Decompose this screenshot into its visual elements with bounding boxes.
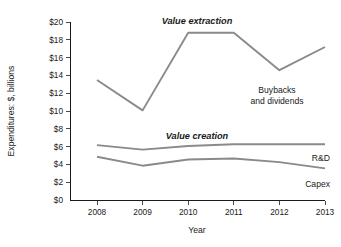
axis-lines [71,22,326,201]
annotation-value-extraction: Value extraction [162,16,233,26]
x-tick-label-2008: 2008 [88,207,107,217]
y-tick-label-10: $10 [49,106,63,116]
y-axis-title: Expenditures: $, billions [6,66,16,157]
x-tick-label-2011: 2011 [225,207,243,217]
y-tick-label-6: $6 [54,142,64,152]
y-tick-label-8: $8 [54,124,64,134]
y-tick-label-20: $20 [49,17,63,27]
y-tick-label-0: $0 [54,195,64,205]
x-tick-label-2012: 2012 [270,207,289,217]
x-tick-label-2009: 2009 [133,207,152,217]
series-label-buybacks-line2: and dividends [250,96,303,106]
line-chart: Expenditures: $, billions $20 $18 $16 $1… [0,0,341,247]
series-label-capex: Capex [305,179,331,189]
y-tick-label-4: $4 [54,159,64,169]
series-label-rnd: R&D [312,153,330,163]
series-line-rnd [97,144,325,149]
y-tick-label-14: $14 [49,70,63,80]
series-line-capex [97,157,325,169]
series-label-buybacks-line1: Buybacks [258,85,295,95]
x-tick-label-2010: 2010 [179,207,198,217]
y-tick-label-2: $2 [54,177,64,187]
x-tick-label-2013: 2013 [316,207,335,217]
chart-container: Expenditures: $, billions $20 $18 $16 $1… [0,0,341,247]
y-tick-label-12: $12 [49,88,63,98]
x-axis-title: Year [188,225,206,235]
annotation-value-creation: Value creation [166,131,229,141]
y-tick-label-16: $16 [49,53,63,63]
y-tick-label-18: $18 [49,35,63,45]
